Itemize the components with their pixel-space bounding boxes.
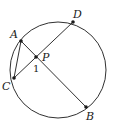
label-a: A xyxy=(9,28,18,41)
angle-1-label: 1 xyxy=(33,63,39,74)
point-c xyxy=(12,76,16,80)
geometry-diagram: A B C D P 1 xyxy=(0,0,113,128)
label-c: C xyxy=(2,80,11,93)
point-p xyxy=(34,55,38,59)
point-a xyxy=(19,39,23,43)
chord-ab xyxy=(21,41,86,107)
label-p: P xyxy=(41,51,50,64)
label-d: D xyxy=(72,8,82,21)
chord-cd xyxy=(14,22,73,78)
point-b xyxy=(84,105,88,109)
label-b: B xyxy=(85,110,94,123)
